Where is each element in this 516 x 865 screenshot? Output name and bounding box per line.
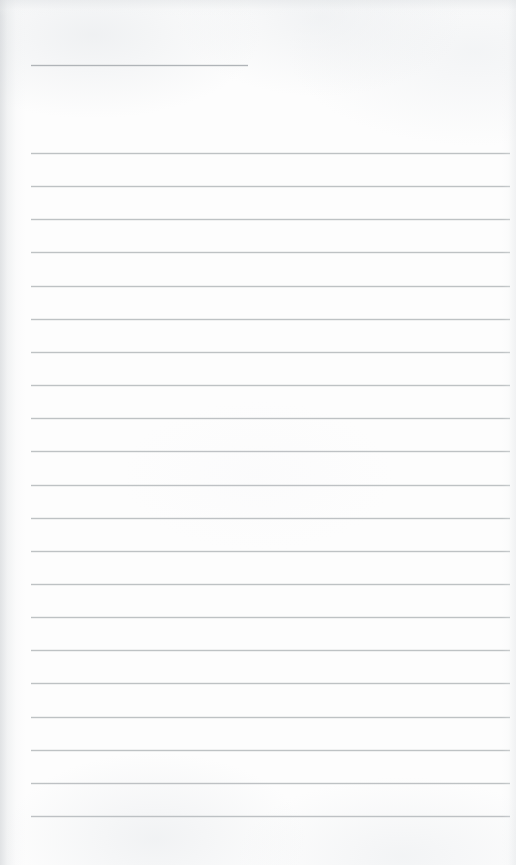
- body-rule: [31, 352, 510, 353]
- body-rule: [31, 485, 510, 486]
- body-rule: [31, 286, 510, 287]
- body-rule: [31, 783, 510, 784]
- body-rule: [31, 385, 510, 386]
- body-rule: [31, 717, 510, 718]
- body-rule: [31, 186, 510, 187]
- ruled-lines-layer: [0, 0, 516, 865]
- body-rule: [31, 219, 510, 220]
- body-rule: [31, 551, 510, 552]
- short-header-rule: [31, 65, 248, 66]
- body-rule: [31, 617, 510, 618]
- body-rule: [31, 418, 510, 419]
- body-rule: [31, 451, 510, 452]
- body-rule: [31, 518, 510, 519]
- body-rule: [31, 252, 510, 253]
- body-rule: [31, 650, 510, 651]
- body-rule: [31, 153, 510, 154]
- body-rule: [31, 584, 510, 585]
- body-rule: [31, 319, 510, 320]
- body-rule: [31, 816, 510, 817]
- body-rule: [31, 683, 510, 684]
- body-rule: [31, 750, 510, 751]
- scanned-page: [0, 0, 516, 865]
